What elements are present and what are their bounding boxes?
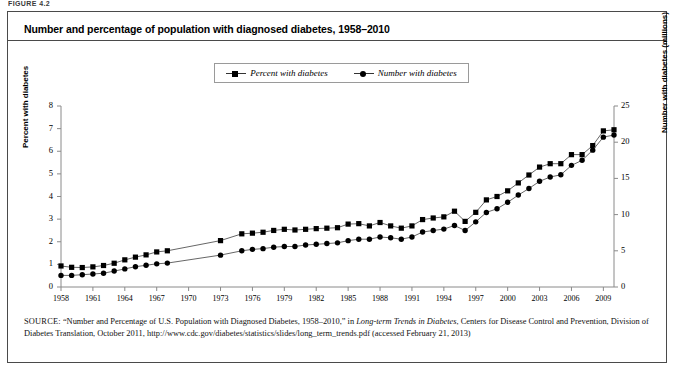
data-point-percent-1975 [239, 231, 244, 236]
data-point-percent-1973 [218, 238, 223, 243]
data-point-number-1983 [324, 241, 329, 246]
data-point-number-1982 [314, 242, 319, 247]
data-point-number-1959 [69, 273, 74, 278]
data-point-percent-1966 [143, 252, 148, 257]
data-point-percent-1992 [420, 217, 425, 222]
data-point-number-2010 [611, 132, 616, 137]
data-point-percent-2002 [526, 172, 531, 177]
data-point-number-1984 [335, 240, 340, 245]
y-tick-left-5: 5 [37, 168, 53, 178]
data-point-number-1985 [345, 238, 350, 243]
data-point-percent-1986 [356, 221, 361, 226]
data-point-number-1990 [399, 237, 404, 242]
data-point-number-2009 [601, 134, 606, 139]
data-point-number-1966 [143, 263, 148, 268]
data-point-percent-2009 [601, 128, 606, 133]
source-italic-1: Long-term Trends in Diabetes [356, 317, 456, 326]
y-tick-right-15: 15 [621, 172, 637, 182]
data-point-percent-1997 [473, 210, 478, 215]
data-point-number-2004 [547, 174, 552, 179]
data-point-percent-2006 [569, 152, 574, 157]
data-point-percent-1987 [367, 223, 372, 228]
data-point-number-1975 [239, 248, 244, 253]
y-tick-right-10: 10 [621, 209, 637, 219]
y-tick-left-3: 3 [37, 213, 53, 223]
data-point-number-1961 [90, 271, 95, 276]
source-text-1: “Number and Percentage of U.S. Populatio… [61, 317, 356, 326]
data-point-percent-1978 [271, 228, 276, 233]
y-tick-left-4: 4 [37, 191, 53, 201]
data-point-percent-1993 [431, 215, 436, 220]
data-point-number-2006 [569, 163, 574, 168]
data-point-number-2001 [516, 192, 521, 197]
data-point-percent-1999 [494, 194, 499, 199]
data-point-number-1967 [154, 261, 159, 266]
data-point-percent-1989 [388, 223, 393, 228]
y-tick-left-6: 6 [37, 145, 53, 155]
data-point-number-1992 [420, 229, 425, 234]
data-point-percent-1960 [80, 265, 85, 270]
y-tick-left-2: 2 [37, 236, 53, 246]
y-tick-left-1: 1 [37, 258, 53, 268]
data-point-number-1964 [122, 266, 127, 271]
data-point-number-1988 [377, 234, 382, 239]
x-tick-2009: 2009 [583, 294, 623, 303]
data-point-percent-1961 [90, 264, 95, 269]
data-point-percent-1982 [314, 226, 319, 231]
data-point-number-2005 [558, 172, 563, 177]
data-point-number-1998 [484, 210, 489, 215]
data-point-percent-1962 [101, 263, 106, 268]
data-point-percent-1968 [165, 248, 170, 253]
data-point-percent-1983 [324, 226, 329, 231]
data-point-number-1980 [292, 244, 297, 249]
data-point-number-2003 [537, 179, 542, 184]
data-point-number-1960 [80, 272, 85, 277]
data-point-percent-1981 [303, 227, 308, 232]
data-point-number-1999 [494, 206, 499, 211]
data-point-percent-1990 [399, 226, 404, 231]
data-point-number-1994 [441, 226, 446, 231]
data-point-number-1973 [218, 252, 223, 257]
data-point-number-1963 [111, 268, 116, 273]
data-point-percent-1967 [154, 249, 159, 254]
data-point-percent-1988 [377, 220, 382, 225]
data-point-number-1995 [452, 223, 457, 228]
data-point-number-2008 [590, 147, 595, 152]
data-point-number-1976 [250, 247, 255, 252]
data-point-percent-1985 [346, 222, 351, 227]
data-point-number-1962 [101, 271, 106, 276]
data-point-percent-1984 [335, 225, 340, 230]
data-point-number-1986 [356, 237, 361, 242]
data-point-percent-1959 [69, 265, 74, 270]
data-point-percent-1977 [260, 230, 265, 235]
data-point-number-1979 [282, 244, 287, 249]
y-tick-right-25: 25 [621, 100, 637, 110]
y-tick-left-8: 8 [37, 100, 53, 110]
data-point-number-1958 [58, 273, 63, 278]
data-point-percent-2005 [558, 161, 563, 166]
data-point-percent-1991 [409, 223, 414, 228]
data-point-percent-1958 [58, 263, 63, 268]
data-point-number-2002 [526, 186, 531, 191]
data-point-number-1981 [303, 242, 308, 247]
data-point-percent-1980 [292, 227, 297, 232]
data-point-percent-2007 [579, 152, 584, 157]
data-point-percent-1994 [441, 214, 446, 219]
data-point-number-1997 [473, 219, 478, 224]
data-point-percent-1965 [133, 255, 138, 260]
data-point-percent-1998 [484, 197, 489, 202]
data-point-number-1968 [165, 260, 170, 265]
data-point-percent-1995 [452, 209, 457, 214]
data-point-number-2000 [505, 200, 510, 205]
y-tick-right-5: 5 [621, 245, 637, 255]
data-point-percent-1996 [463, 219, 468, 224]
data-point-number-2007 [579, 158, 584, 163]
y-tick-right-20: 20 [621, 136, 637, 146]
data-point-number-1965 [133, 264, 138, 269]
data-point-number-1989 [388, 235, 393, 240]
y-tick-left-7: 7 [37, 123, 53, 133]
data-point-percent-1963 [112, 261, 117, 266]
data-point-number-1977 [260, 246, 265, 251]
data-point-number-1978 [271, 244, 276, 249]
y-tick-left-0: 0 [37, 281, 53, 291]
